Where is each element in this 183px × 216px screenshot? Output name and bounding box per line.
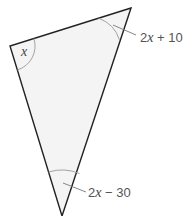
left-angle-label: x: [20, 44, 28, 59]
bottom-angle-label: 2x − 30: [88, 185, 131, 200]
top-right-angle-label: 2x + 10: [140, 30, 183, 45]
triangle-diagram: x 2x + 10 2x − 30: [0, 0, 183, 216]
